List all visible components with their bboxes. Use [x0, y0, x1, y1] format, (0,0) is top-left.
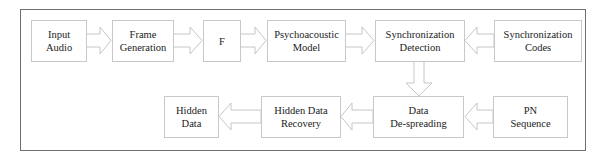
arrow-right-icon: [345, 27, 374, 54]
node-label: Input: [48, 28, 70, 41]
node-synchronization-detection: Synchronization Detection: [375, 20, 465, 62]
node-label: Synchronization: [386, 28, 455, 41]
node-label: Sequence: [510, 117, 550, 130]
node-label: Detection: [400, 41, 441, 54]
node-label: Synchronization: [504, 28, 573, 41]
node-input-audio: Input Audio: [31, 20, 87, 62]
node-label: Recovery: [281, 117, 321, 130]
node-label: F: [219, 35, 225, 48]
node-label: Codes: [525, 41, 551, 54]
node-synchronization-codes: Synchronization Codes: [494, 20, 582, 62]
node-label: Generation: [120, 41, 167, 54]
node-label: PN: [524, 104, 537, 117]
node-label: Model: [293, 41, 320, 54]
arrow-down-icon: [406, 61, 432, 96]
arrow-right-icon: [86, 27, 111, 54]
arrow-left-icon: [465, 27, 494, 54]
arrow-left-icon: [341, 103, 373, 130]
node-label: Psychoacoustic: [274, 28, 339, 41]
node-label: Frame: [130, 28, 157, 41]
node-label: Data: [409, 104, 429, 117]
arrow-left-icon: [219, 103, 261, 130]
node-f: F: [203, 20, 241, 62]
node-frame-generation: Frame Generation: [112, 20, 174, 62]
node-psychoacoustic-model: Psychoacoustic Model: [267, 20, 346, 62]
node-label: Data: [182, 117, 202, 130]
node-label: Hidden: [176, 104, 207, 117]
node-hidden-data: Hidden Data: [164, 96, 219, 138]
arrow-right-icon: [173, 27, 202, 54]
node-label: Audio: [46, 41, 72, 54]
node-label: De-spreading: [390, 117, 447, 130]
node-pn-sequence: PN Sequence: [493, 96, 568, 138]
node-data-despreading: Data De-spreading: [373, 96, 464, 138]
node-hidden-data-recovery: Hidden Data Recovery: [261, 96, 341, 138]
arrow-right-icon: [240, 27, 266, 54]
node-label: Hidden Data: [274, 104, 327, 117]
arrow-left-icon: [465, 103, 493, 130]
